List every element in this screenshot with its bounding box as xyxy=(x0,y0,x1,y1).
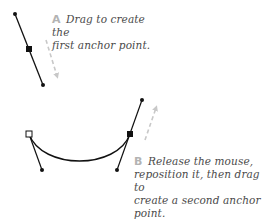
anchor-point-hollow xyxy=(26,131,32,137)
step-a-caption: A Drag to create the first anchor point. xyxy=(52,13,162,52)
step-a-graphic xyxy=(13,12,57,87)
curve-segment xyxy=(29,134,130,161)
direction-handle-point xyxy=(40,168,44,172)
caption-line: create a second anchor point. xyxy=(134,194,272,219)
caption-line: Release the mouse, xyxy=(148,155,253,167)
pen-tool-diagram: A Drag to create the first anchor point.… xyxy=(0,0,272,219)
caption-line: Drag to create the xyxy=(52,13,145,38)
caption-line: first anchor point. xyxy=(52,39,162,52)
step-letter: A xyxy=(52,13,61,26)
direction-handle-point xyxy=(140,98,144,102)
anchor-point-filled xyxy=(127,131,133,137)
direction-handle-point xyxy=(13,12,17,16)
step-b-caption: B Release the mouse, reposition it, then… xyxy=(134,155,272,219)
caption-line: reposition it, then drag to xyxy=(134,168,272,194)
direction-line xyxy=(29,134,42,170)
step-letter: B xyxy=(134,155,142,168)
anchor-point-filled xyxy=(26,46,32,52)
direction-handle-point xyxy=(115,168,119,172)
drag-arrow-icon xyxy=(145,108,156,140)
direction-handle-point xyxy=(41,83,45,87)
